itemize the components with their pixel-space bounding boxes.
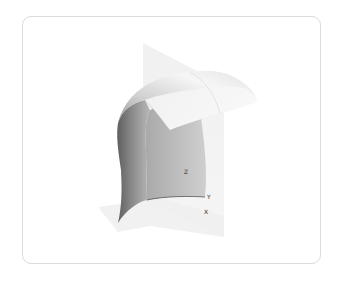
x-axis-label: X: [204, 208, 208, 215]
3d-plot-canvas[interactable]: Z Y X: [0, 0, 342, 281]
z-axis-label: Z: [184, 168, 188, 175]
y-axis-label: Y: [206, 193, 211, 200]
